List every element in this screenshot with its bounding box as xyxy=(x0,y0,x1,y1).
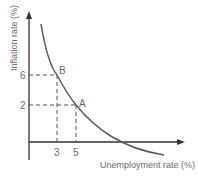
y-axis-title: Inflation rate (%) xyxy=(9,5,19,71)
x-tick-5: 5 xyxy=(73,147,79,158)
y-tick-2: 2 xyxy=(20,100,26,111)
phillips-curve-chart: B A 6 2 3 5 Unemployment rate (%) Inflat… xyxy=(0,0,198,179)
point-a-label: A xyxy=(79,98,86,109)
x-axis-arrow-icon xyxy=(177,139,185,145)
guide-lines xyxy=(29,75,76,142)
point-b-label: B xyxy=(59,65,66,76)
x-axis-title: Unemployment rate (%) xyxy=(100,160,195,170)
y-tick-6: 6 xyxy=(20,70,26,81)
y-axis-arrow-icon xyxy=(26,11,32,19)
phillips-curve xyxy=(41,24,164,155)
x-tick-3: 3 xyxy=(54,147,60,158)
